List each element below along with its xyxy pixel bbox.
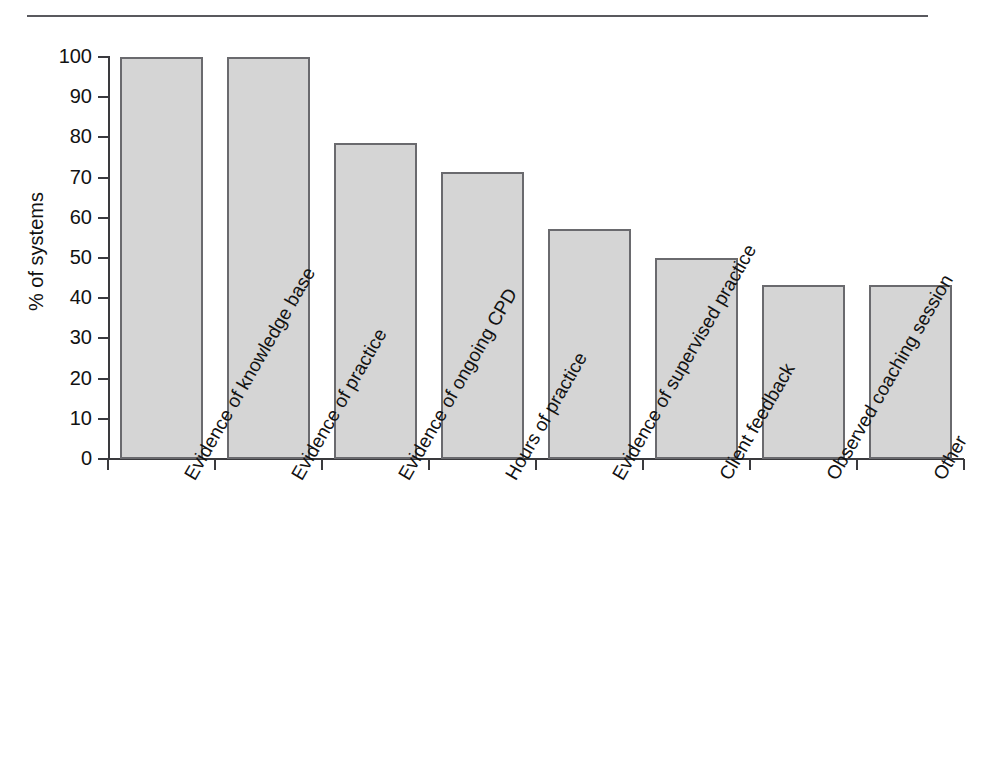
y-tick-label-30: 30 [42, 327, 92, 347]
y-tick-label-40: 40 [42, 287, 92, 307]
y-tick-label-text: 90 [46, 86, 92, 106]
bar [441, 172, 524, 459]
y-tick-label-100: 100 [42, 46, 92, 66]
y-tick-label-60: 60 [42, 207, 92, 227]
y-tick-60 [98, 217, 109, 219]
x-tick-2 [321, 459, 323, 470]
y-tick-label-text: 100 [46, 46, 92, 66]
y-tick-label-50: 50 [42, 247, 92, 267]
y-tick-label-text: 10 [46, 408, 92, 428]
y-tick-label-0: 0 [42, 448, 92, 468]
y-tick-label-text: 0 [46, 448, 92, 468]
y-tick-10 [98, 418, 109, 420]
y-tick-label-70: 70 [42, 167, 92, 187]
x-tick-5 [642, 459, 644, 470]
y-tick-50 [98, 257, 109, 259]
y-tick-label-text: 40 [46, 287, 92, 307]
y-tick-100 [98, 56, 109, 58]
y-tick-90 [98, 96, 109, 98]
y-tick-label-text: 70 [46, 167, 92, 187]
y-tick-label-text: 60 [46, 207, 92, 227]
y-tick-label-80: 80 [42, 126, 92, 146]
x-tick-1 [214, 459, 216, 470]
y-tick-label-text: 30 [46, 327, 92, 347]
y-tick-70 [98, 177, 109, 179]
y-tick-label-10: 10 [42, 408, 92, 428]
y-tick-20 [98, 378, 109, 380]
y-tick-label-90: 90 [42, 86, 92, 106]
bar-chart: % of systems 0102030405060708090100 Evid… [0, 0, 993, 774]
y-tick-label-20: 20 [42, 368, 92, 388]
x-tick-7 [856, 459, 858, 470]
x-tick-3 [428, 459, 430, 470]
x-tick-8 [963, 459, 965, 470]
bar [548, 229, 631, 459]
bar [120, 57, 203, 459]
y-tick-80 [98, 136, 109, 138]
y-tick-label-text: 20 [46, 368, 92, 388]
y-tick-label-text: 50 [46, 247, 92, 267]
y-tick-30 [98, 337, 109, 339]
x-tick-0 [107, 459, 109, 470]
x-tick-4 [535, 459, 537, 470]
y-tick-label-text: 80 [46, 126, 92, 146]
y-tick-40 [98, 297, 109, 299]
x-tick-6 [749, 459, 751, 470]
